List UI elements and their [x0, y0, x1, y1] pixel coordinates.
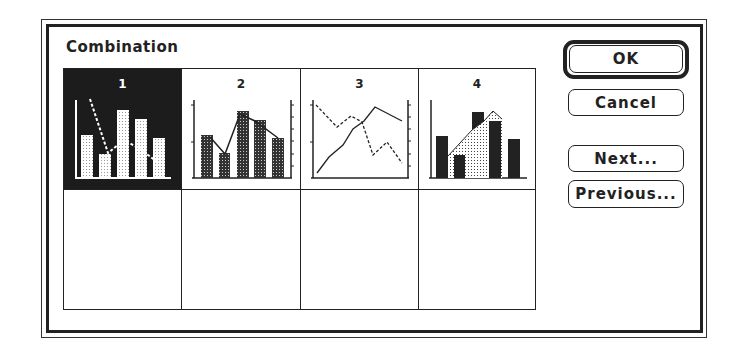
chart-format-gallery: 1 2	[63, 68, 536, 310]
gallery-cell-7[interactable]	[301, 190, 419, 309]
next-button[interactable]: Next...	[568, 145, 684, 172]
ok-button[interactable]: OK	[569, 45, 683, 73]
gallery-cell-8[interactable]	[419, 190, 535, 309]
bar-line-dual-axis-chart-icon	[182, 69, 301, 190]
gallery-cell-2[interactable]: 2	[182, 69, 301, 190]
gallery-cell-4[interactable]: 4	[419, 69, 535, 190]
two-line-chart-icon	[301, 69, 419, 190]
gallery-cell-5[interactable]	[64, 190, 182, 309]
gallery-cell-1[interactable]: 1	[64, 69, 182, 190]
bar-line-combo-chart-icon	[64, 69, 182, 190]
previous-button[interactable]: Previous...	[568, 180, 684, 208]
cancel-button[interactable]: Cancel	[568, 89, 684, 116]
dialog-title: Combination	[66, 38, 178, 56]
area-column-combo-chart-icon	[419, 69, 537, 190]
gallery-cell-3[interactable]: 3	[301, 69, 419, 190]
gallery-cell-6[interactable]	[182, 190, 301, 309]
